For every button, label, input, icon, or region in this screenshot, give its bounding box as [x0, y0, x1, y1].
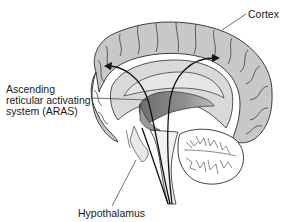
label-hypothalamus: Hypothalamus	[78, 208, 145, 219]
label-aras: Ascending reticular activating system (A…	[6, 84, 91, 117]
label-cortex: Cortex	[248, 9, 279, 20]
label-aras-line3: system (ARAS)	[6, 106, 91, 117]
